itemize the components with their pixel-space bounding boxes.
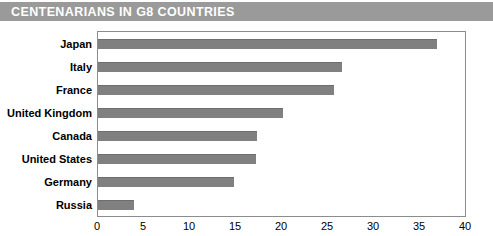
bar bbox=[98, 85, 334, 95]
y-axis-label: United Kingdom bbox=[0, 108, 92, 119]
bar bbox=[98, 131, 257, 141]
y-axis-label: France bbox=[0, 85, 92, 96]
bar bbox=[98, 177, 234, 187]
chart-title-banner: CENTENARIANS IN G8 COUNTRIES bbox=[0, 2, 493, 21]
bar-chart: JapanItalyFranceUnited KingdomCanadaUnit… bbox=[0, 21, 493, 236]
x-axis-tick-labels: 0510152025303540 bbox=[0, 220, 493, 234]
x-axis-tick: 25 bbox=[321, 220, 333, 232]
x-axis-tick: 35 bbox=[413, 220, 425, 232]
y-axis-label: Germany bbox=[0, 177, 92, 188]
bar bbox=[98, 200, 134, 210]
x-axis-tick: 40 bbox=[459, 220, 471, 232]
x-axis-title: per 100 000 bbox=[97, 235, 466, 236]
bar bbox=[98, 154, 256, 164]
bar bbox=[98, 62, 342, 72]
x-axis-tick: 0 bbox=[94, 220, 100, 232]
y-axis-label: United States bbox=[0, 154, 92, 165]
y-axis-label: Canada bbox=[0, 131, 92, 142]
x-axis-tick: 10 bbox=[183, 220, 195, 232]
x-axis-tick: 15 bbox=[229, 220, 241, 232]
x-axis-tick: 30 bbox=[367, 220, 379, 232]
y-axis-label: Russia bbox=[0, 200, 92, 211]
bar bbox=[98, 108, 283, 118]
y-axis-label: Italy bbox=[0, 62, 92, 73]
x-axis-tick: 20 bbox=[275, 220, 287, 232]
x-axis-tick: 5 bbox=[140, 220, 146, 232]
y-axis-label: Japan bbox=[0, 39, 92, 50]
y-axis-category-labels: JapanItalyFranceUnited KingdomCanadaUnit… bbox=[0, 31, 92, 217]
page-title: CENTENARIANS IN G8 COUNTRIES bbox=[0, 5, 235, 19]
bar bbox=[98, 39, 437, 49]
bar-series bbox=[98, 32, 466, 216]
